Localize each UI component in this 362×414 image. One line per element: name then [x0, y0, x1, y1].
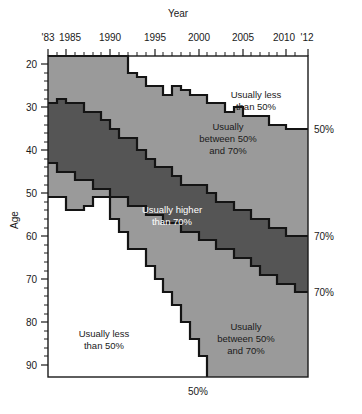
- y-axis-title: Age: [9, 211, 20, 229]
- svg-text:than 70%: than 70%: [152, 216, 193, 227]
- y-tick-labels: 20 30 40 50 60 70 80 90: [26, 59, 38, 371]
- y-tick-label-0: 20: [26, 59, 38, 70]
- svg-text:between 50%: between 50%: [217, 333, 275, 344]
- svg-text:and 70%: and 70%: [227, 345, 265, 356]
- y-tick-label-3: 50: [26, 188, 38, 199]
- x-tick-label-6: 2010: [273, 32, 296, 43]
- y-tick-label-4: 60: [26, 231, 38, 242]
- y-tick-label-6: 80: [26, 317, 38, 328]
- contour-label-70-right-lower: 70%: [314, 287, 334, 298]
- contour-label-50-right: 50%: [314, 124, 334, 135]
- y-tick-label-1: 30: [26, 102, 38, 113]
- y-tick-label-5: 70: [26, 274, 38, 285]
- y-axis-ticks: [41, 64, 48, 365]
- x-axis-title: Year: [168, 8, 189, 19]
- svg-text:than 50%: than 50%: [84, 340, 125, 351]
- svg-text:and 70%: and 70%: [209, 145, 247, 156]
- chart-svg: '83 1985 1990 1995 2000 2005 2010 '12 20…: [0, 0, 362, 414]
- x-tick-label-5: 2005: [232, 32, 255, 43]
- region-label-usually-less-than-50-upper: Usually less than 50%: [231, 89, 282, 112]
- svg-text:Usually: Usually: [230, 321, 261, 332]
- region-label-usually-less-than-50-lower: Usually less than 50%: [79, 328, 130, 351]
- y-tick-label-7: 90: [26, 360, 38, 371]
- svg-text:than 50%: than 50%: [236, 101, 277, 112]
- x-tick-label-0: '83: [41, 32, 54, 43]
- contour-label-70-right-upper: 70%: [314, 231, 334, 242]
- contour-label-50-bottom: 50%: [188, 386, 208, 397]
- age-year-region-chart: '83 1985 1990 1995 2000 2005 2010 '12 20…: [0, 0, 362, 414]
- svg-text:Usually less: Usually less: [79, 328, 130, 339]
- y-tick-label-2: 40: [26, 145, 38, 156]
- x-tick-label-3: 1995: [144, 32, 167, 43]
- x-tick-label-4: 2000: [188, 32, 211, 43]
- svg-text:Usually: Usually: [212, 121, 243, 132]
- x-tick-label-7: '12: [300, 32, 313, 43]
- svg-text:Usually less: Usually less: [231, 89, 282, 100]
- x-tick-label-2: 1990: [99, 32, 122, 43]
- svg-text:between 50%: between 50%: [199, 133, 257, 144]
- x-tick-label-1: 1985: [59, 32, 82, 43]
- svg-text:Usually higher: Usually higher: [142, 204, 202, 215]
- x-tick-labels: '83 1985 1990 1995 2000 2005 2010 '12: [41, 32, 313, 43]
